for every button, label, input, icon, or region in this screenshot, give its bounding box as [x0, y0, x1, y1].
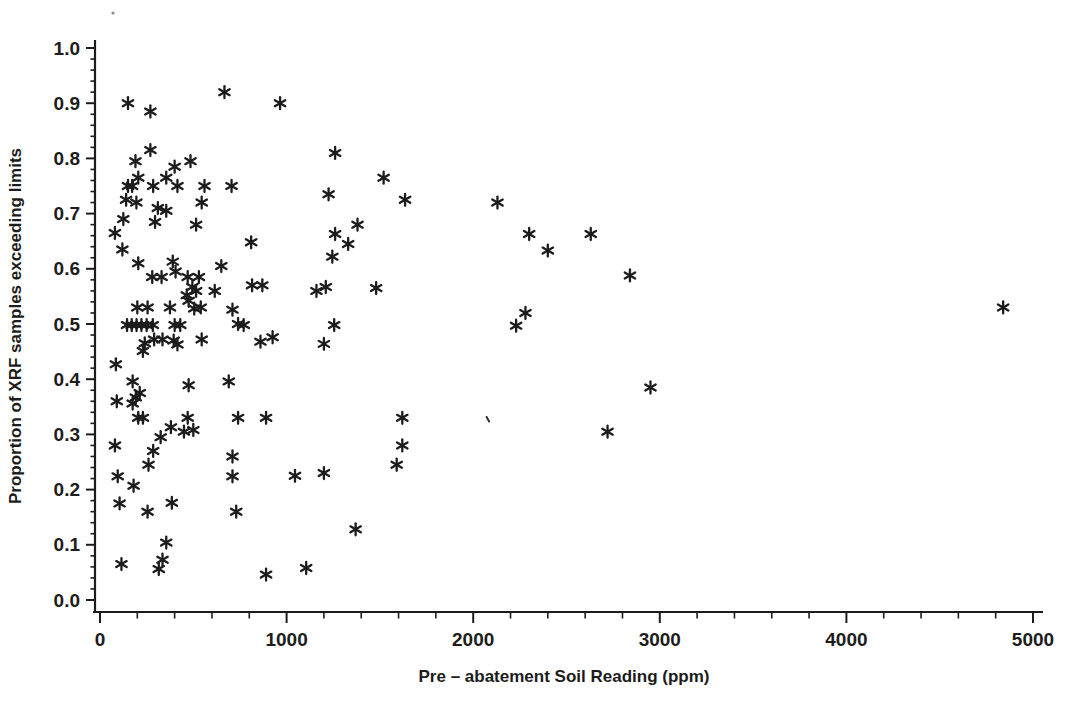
data-point-marker	[586, 228, 596, 240]
data-point-marker	[118, 213, 128, 225]
data-point-marker	[255, 336, 265, 348]
x-tick-label: 0	[95, 629, 106, 650]
x-axis-title: Pre – abatement Soil Reading (ppm)	[419, 667, 710, 686]
data-point-marker	[114, 497, 124, 509]
x-tick-label: 2000	[452, 629, 494, 650]
data-point-marker	[172, 180, 182, 192]
data-point-marker	[261, 412, 271, 424]
data-point-marker	[226, 180, 236, 192]
data-point-marker	[199, 180, 209, 192]
data-point-marker	[194, 271, 204, 283]
data-point-marker	[330, 147, 340, 159]
data-point-marker	[227, 450, 237, 462]
data-point-marker	[323, 188, 333, 200]
data-point-marker	[155, 431, 165, 443]
data-point-marker	[147, 271, 157, 283]
y-tick-label: 0.1	[54, 534, 81, 555]
data-point-marker	[397, 412, 407, 424]
data-point-marker	[219, 86, 229, 98]
data-point-marker	[167, 497, 177, 509]
data-point-marker	[148, 180, 158, 192]
data-point-marker	[400, 194, 410, 206]
data-point-marker	[210, 285, 220, 297]
data-point-marker	[197, 197, 207, 209]
data-point-marker	[156, 271, 166, 283]
data-point-marker	[131, 197, 141, 209]
data-point-marker	[161, 537, 171, 549]
data-point-marker	[352, 219, 362, 231]
data-point-marker	[227, 304, 237, 316]
data-point-marker	[602, 426, 612, 438]
y-tick-label: 0.2	[54, 479, 80, 500]
data-point-marker	[133, 257, 143, 269]
y-tick-label: 0.8	[54, 148, 80, 169]
y-tick-label: 0.4	[54, 369, 81, 390]
data-point-marker	[492, 197, 502, 209]
data-point-marker	[161, 172, 171, 184]
data-point-marker	[267, 331, 277, 343]
scan-speck	[111, 11, 114, 14]
data-point-marker	[110, 439, 120, 451]
y-tick-label: 0.6	[54, 258, 80, 279]
data-point-marker	[524, 228, 534, 240]
data-point-marker	[329, 319, 339, 331]
x-tick-label: 4000	[825, 629, 867, 650]
x-tick-label: 1000	[265, 629, 307, 650]
data-point-marker	[148, 319, 158, 331]
data-point-marker	[319, 467, 329, 479]
data-point-marker	[150, 216, 160, 228]
data-point-marker	[231, 506, 241, 518]
faint-data-mark	[487, 417, 490, 422]
data-point-marker	[543, 245, 553, 257]
data-point-marker	[227, 470, 237, 482]
y-tick-label: 0.0	[54, 590, 80, 611]
data-point-marker	[145, 105, 155, 117]
data-point-marker	[166, 421, 176, 433]
data-point-marker	[998, 301, 1008, 313]
data-point-marker	[123, 97, 133, 109]
data-point-marker	[117, 243, 127, 255]
scatter-plot-canvas: Proportion of XRF samples exceeding limi…	[0, 0, 1082, 717]
data-point-marker	[327, 251, 337, 263]
data-point-marker	[169, 161, 179, 173]
data-point-marker	[290, 470, 300, 482]
data-point-marker	[246, 236, 256, 248]
data-point-marker	[133, 172, 143, 184]
x-tick-label: 3000	[639, 629, 681, 650]
data-point-marker	[511, 320, 521, 332]
data-point-marker	[301, 562, 311, 574]
y-tick-label: 0.9	[54, 93, 80, 114]
plot-generated-content: 0.00.10.20.30.40.50.60.70.80.91.00100020…	[54, 11, 1055, 650]
data-point-marker	[247, 279, 257, 291]
data-point-marker	[148, 445, 158, 457]
data-point-marker	[397, 439, 407, 451]
data-point-marker	[116, 558, 126, 570]
data-point-marker	[625, 269, 635, 281]
data-point-marker	[183, 379, 193, 391]
data-point-marker	[233, 412, 243, 424]
data-point-marker	[343, 238, 353, 250]
data-point-marker	[165, 301, 175, 313]
data-point-marker	[350, 523, 360, 535]
data-point-marker	[371, 282, 381, 294]
x-tick-label: 5000	[1012, 629, 1054, 650]
data-point-marker	[275, 97, 285, 109]
data-point-marker	[143, 459, 153, 471]
data-point-marker	[330, 228, 340, 240]
data-point-marker	[520, 307, 530, 319]
data-point-marker	[127, 375, 137, 387]
y-tick-label: 0.5	[54, 314, 81, 335]
data-point-marker	[110, 227, 120, 239]
data-point-marker	[128, 480, 138, 492]
y-axis-title: Proportion of XRF samples exceeding limi…	[6, 148, 25, 504]
scatter-plot-figure: Proportion of XRF samples exceeding limi…	[0, 0, 1082, 717]
data-point-marker	[185, 155, 195, 167]
data-point-marker	[130, 155, 140, 167]
data-point-marker	[111, 358, 121, 370]
data-point-marker	[378, 172, 388, 184]
data-point-marker	[645, 381, 655, 393]
data-point-marker	[113, 470, 123, 482]
data-point-marker	[132, 301, 142, 313]
data-point-marker	[157, 333, 167, 345]
y-tick-label: 1.0	[54, 38, 80, 59]
